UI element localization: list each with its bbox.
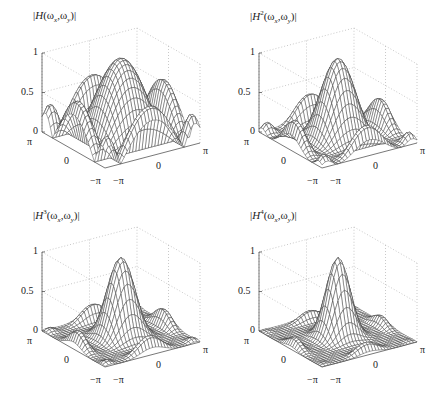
x-tick-label: −π xyxy=(330,374,341,385)
z-tick-label: 0.5 xyxy=(21,86,34,97)
y-tick-label: 0 xyxy=(64,155,69,166)
z-tick-label: 1 xyxy=(33,245,38,256)
x-tick-label: −π xyxy=(113,374,124,385)
z-tick-label: 0.5 xyxy=(238,86,251,97)
y-tick-label: π xyxy=(27,335,32,346)
y-tick-label: 0 xyxy=(281,155,286,166)
z-tick-label: 0.5 xyxy=(21,285,34,296)
plot-area xyxy=(0,199,218,398)
x-tick-label: π xyxy=(203,344,208,355)
surface-plot-1: |H(ωx,ωy)|10.50π0−π−π0π xyxy=(0,0,218,199)
plot-title: |H4(ωx,ωy)| xyxy=(250,208,297,224)
x-tick-label: 0 xyxy=(156,160,161,171)
y-tick-label: −π xyxy=(307,175,318,186)
y-tick-label: π xyxy=(27,136,32,147)
surface-plot-2: |H2(ωx,ωy)|10.50π0−π−π0π xyxy=(217,0,435,199)
plot-title: |H2(ωx,ωy)| xyxy=(250,9,297,25)
x-tick-label: π xyxy=(420,344,425,355)
z-tick-label: 0 xyxy=(33,125,38,136)
z-tick-label: 0 xyxy=(250,125,255,136)
plot-area xyxy=(217,199,435,398)
x-tick-label: π xyxy=(203,145,208,156)
z-tick-label: 0 xyxy=(33,324,38,335)
x-tick-label: 0 xyxy=(373,359,378,370)
y-tick-label: π xyxy=(244,335,249,346)
surface-plot-4: |H4(ωx,ωy)|10.50π0−π−π0π xyxy=(217,199,435,398)
plot-title: |H3(ωx,ωy)| xyxy=(33,208,80,224)
surface-plot-3: |H3(ωx,ωy)|10.50π0−π−π0π xyxy=(0,199,218,398)
y-tick-label: −π xyxy=(307,374,318,385)
y-tick-label: π xyxy=(244,136,249,147)
plot-area xyxy=(217,0,435,199)
x-tick-label: −π xyxy=(330,175,341,186)
y-tick-label: −π xyxy=(90,175,101,186)
x-tick-label: 0 xyxy=(156,359,161,370)
z-tick-label: 1 xyxy=(250,46,255,57)
y-tick-label: 0 xyxy=(281,354,286,365)
z-tick-label: 1 xyxy=(250,245,255,256)
y-tick-label: −π xyxy=(90,374,101,385)
z-tick-label: 0 xyxy=(250,324,255,335)
plot-title: |H(ωx,ωy)| xyxy=(33,9,76,24)
z-tick-label: 0.5 xyxy=(238,285,251,296)
y-tick-label: 0 xyxy=(64,354,69,365)
plot-area xyxy=(0,0,218,199)
x-tick-label: −π xyxy=(113,175,124,186)
z-tick-label: 1 xyxy=(33,46,38,57)
x-tick-label: 0 xyxy=(373,160,378,171)
x-tick-label: π xyxy=(420,145,425,156)
